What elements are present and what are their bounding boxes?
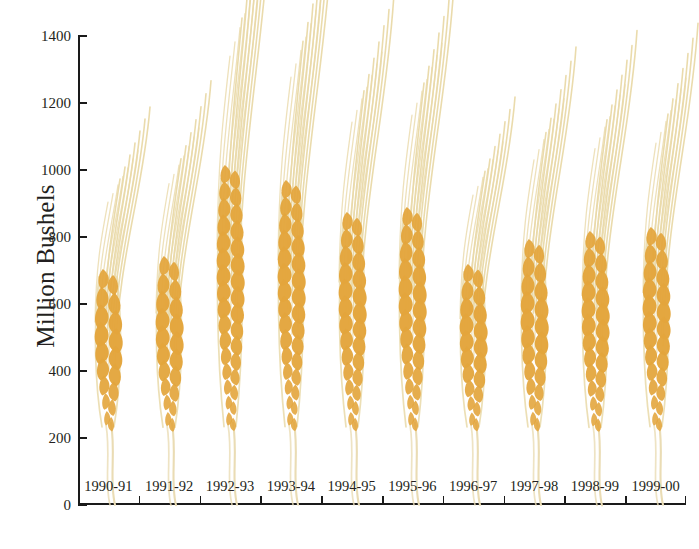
x-axis-tick <box>564 496 566 505</box>
y-axis-tick-label: 600 <box>49 296 72 313</box>
x-axis-label: 1996-97 <box>449 478 497 495</box>
x-axis-label: 1995-96 <box>388 478 436 495</box>
x-axis-tick <box>260 496 262 505</box>
y-axis-tick-label: 1200 <box>41 95 71 112</box>
y-axis-tick <box>78 169 87 171</box>
wheat-stalk-marker <box>437 262 509 505</box>
x-axis-label: 1994-95 <box>327 478 375 495</box>
wheat-stalk-marker <box>194 163 266 505</box>
y-axis-tick-label: 800 <box>49 229 72 246</box>
x-axis-tick <box>200 496 202 505</box>
y-axis-tick <box>78 102 87 104</box>
x-axis-tick <box>625 496 627 505</box>
y-axis-tick <box>78 370 87 372</box>
wheat-stalk-marker <box>255 178 327 505</box>
x-axis-label: 1992-93 <box>206 478 254 495</box>
wheat-stalk-marker <box>133 254 205 505</box>
x-axis-label: 1991-92 <box>145 478 193 495</box>
wheat-stalk-marker <box>376 205 448 505</box>
x-axis-label: 1999-00 <box>631 478 679 495</box>
x-axis-tick <box>321 496 323 505</box>
wheat-stalk-marker <box>559 229 631 505</box>
y-axis-tick <box>78 303 87 305</box>
y-axis-tick-label: 1000 <box>41 162 71 179</box>
x-axis-tick <box>685 496 687 505</box>
y-axis-tick-label: 1400 <box>41 28 71 45</box>
x-axis-label: 1993-94 <box>267 478 315 495</box>
y-axis-line <box>78 36 80 505</box>
plot-area: 0200400600800100012001400 <box>78 36 686 505</box>
y-axis-tick <box>78 35 87 37</box>
wheat-stalk-marker <box>620 225 692 505</box>
wheat-stalk-marker <box>498 237 570 505</box>
x-axis-label: 1997-98 <box>510 478 558 495</box>
x-axis-label: 1990-91 <box>84 478 132 495</box>
y-axis-tick-label: 200 <box>49 430 72 447</box>
y-axis-tick <box>78 236 87 238</box>
x-axis-label: 1998-99 <box>571 478 619 495</box>
y-axis-tick-label: 400 <box>49 363 72 380</box>
x-axis-tick <box>139 496 141 505</box>
x-axis-tick <box>382 496 384 505</box>
wheat-production-chart: Million Bushels 020040060080010001200140… <box>0 0 699 549</box>
x-axis-tick <box>504 496 506 505</box>
x-axis-tick <box>443 496 445 505</box>
wheat-stalk-marker <box>316 210 388 505</box>
y-axis-tick <box>78 437 87 439</box>
y-axis-tick-label: 0 <box>64 497 72 514</box>
x-axis-tick <box>78 496 80 505</box>
